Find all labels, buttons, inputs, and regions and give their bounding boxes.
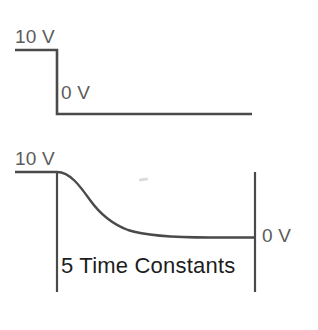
decay-start-voltage-label: 10 V — [15, 149, 55, 168]
rc-decay-trace — [15, 172, 255, 238]
figure-canvas: 10 V 0 V 10 V 0 V 5 Time Constants — [0, 0, 318, 330]
time-constants-span-label: 5 Time Constants — [61, 255, 235, 277]
input-step-waveform — [15, 50, 252, 114]
input-high-voltage-label: 10 V — [15, 27, 55, 46]
input-low-voltage-label: 0 V — [61, 83, 90, 102]
input-step-trace — [15, 50, 252, 114]
decay-final-voltage-label: 0 V — [262, 226, 291, 245]
